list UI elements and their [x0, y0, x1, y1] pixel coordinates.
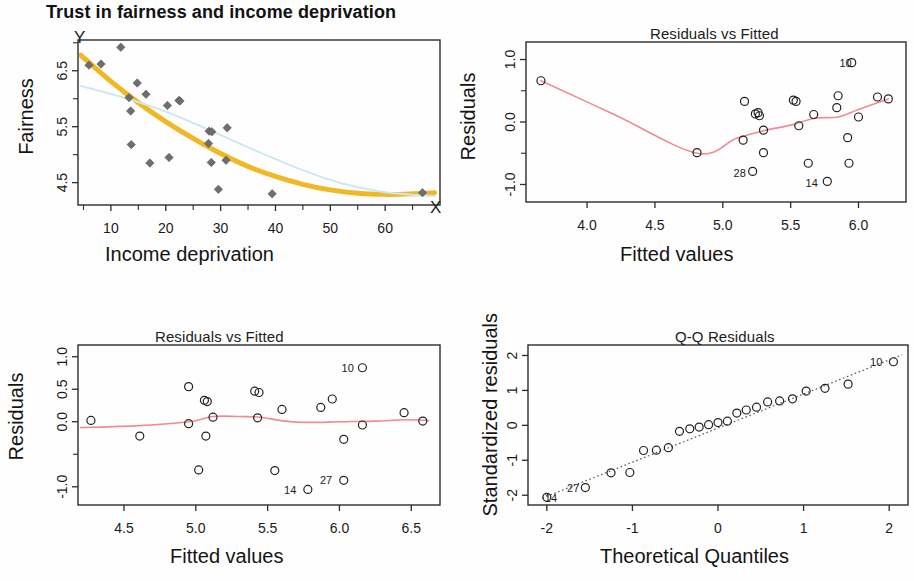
svg-text:2: 2: [504, 351, 520, 359]
svg-text:4.0: 4.0: [577, 217, 597, 233]
svg-text:5.5: 5.5: [54, 117, 70, 137]
svg-text:-2: -2: [504, 489, 520, 502]
svg-text:5.5: 5.5: [258, 520, 278, 536]
svg-text:50: 50: [323, 220, 339, 236]
svg-text:0: 0: [714, 520, 722, 536]
svg-text:-2: -2: [541, 520, 554, 536]
svg-text:4.5: 4.5: [54, 173, 70, 193]
svg-text:0: 0: [504, 421, 520, 429]
svg-text:20: 20: [158, 220, 174, 236]
svg-text:1: 1: [800, 520, 808, 536]
svg-text:6.5: 6.5: [54, 61, 70, 81]
panel-scatter-fairness: Trust in fairness and income deprivation…: [0, 0, 460, 290]
svg-text:10: 10: [103, 220, 119, 236]
main-title: Trust in fairness and income deprivation: [46, 2, 396, 23]
svg-text:14: 14: [545, 492, 557, 504]
svg-text:10: 10: [839, 57, 851, 69]
svg-text:40: 40: [268, 220, 284, 236]
svg-text:27: 27: [567, 482, 579, 494]
y-axis-label-residuals-top: Residuals: [457, 67, 480, 167]
panel-resid-vs-fitted-top: Residuals vs Fitted Residuals Fitted val…: [460, 0, 914, 290]
svg-text:-1: -1: [626, 520, 639, 536]
y-axis-label-standardized-residuals: Standardized residuals: [479, 317, 502, 517]
y-axis-label-fairness: Fairness: [15, 67, 38, 167]
svg-text:60: 60: [377, 220, 393, 236]
svg-text:6.0: 6.0: [330, 520, 350, 536]
svg-text:28: 28: [734, 167, 746, 179]
x-axis-label-fitted-values-top: Fitted values: [620, 243, 733, 266]
x-axis-label-theoretical-quantiles: Theoretical Quantiles: [600, 545, 789, 568]
svg-text:5.5: 5.5: [781, 217, 801, 233]
svg-text:14: 14: [806, 177, 818, 189]
svg-text:1.0: 1.0: [54, 347, 70, 367]
svg-text:30: 30: [213, 220, 229, 236]
panel-qq-residuals: Q-Q Residuals Standardized residuals The…: [460, 290, 914, 581]
svg-text:0.0: 0.0: [502, 112, 518, 132]
svg-text:0.5: 0.5: [54, 379, 70, 399]
svg-text:5.0: 5.0: [186, 520, 206, 536]
svg-text:6.0: 6.0: [849, 217, 869, 233]
svg-text:1.0: 1.0: [502, 50, 518, 70]
svg-text:-1.0: -1.0: [502, 172, 518, 196]
figure-canvas: Trust in fairness and income deprivation…: [0, 0, 914, 581]
plot-title-qq-residuals: Q-Q Residuals: [675, 328, 775, 345]
x-axis-corner-letter: X: [430, 198, 441, 218]
x-axis-label-income-deprivation: Income deprivation: [105, 243, 274, 266]
plot-title-residuals-vs-fitted-top: Residuals vs Fitted: [650, 25, 779, 42]
y-axis-label-residuals-bottom: Residuals: [5, 367, 28, 467]
svg-text:-1: -1: [504, 454, 520, 467]
svg-text:0.0: 0.0: [54, 412, 70, 432]
panel-resid-vs-fitted-bottom: Residuals vs Fitted Residuals Fitted val…: [0, 290, 460, 581]
svg-text:10: 10: [342, 362, 354, 374]
svg-text:4.5: 4.5: [645, 217, 665, 233]
y-axis-corner-letter: Y: [74, 28, 85, 48]
plot-title-residuals-vs-fitted-bottom: Residuals vs Fitted: [155, 328, 284, 345]
svg-text:10: 10: [870, 356, 882, 368]
svg-text:14: 14: [284, 484, 296, 496]
svg-text:2: 2: [885, 520, 893, 536]
svg-text:5.0: 5.0: [713, 217, 733, 233]
svg-text:4.5: 4.5: [114, 520, 134, 536]
svg-text:27: 27: [320, 474, 332, 486]
svg-text:1: 1: [504, 386, 520, 394]
svg-text:-1.0: -1.0: [54, 475, 70, 499]
svg-text:6.5: 6.5: [402, 520, 422, 536]
x-axis-label-fitted-values-bottom: Fitted values: [170, 545, 283, 568]
